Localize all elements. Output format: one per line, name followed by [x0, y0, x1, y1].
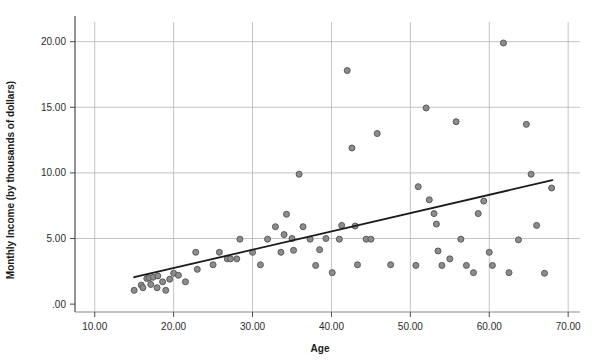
- data-point: [182, 279, 188, 285]
- data-point: [278, 249, 284, 255]
- data-point: [344, 68, 350, 74]
- scatter-chart: 10.0020.0030.0040.0050.0060.0070.00 .005…: [0, 0, 598, 361]
- data-points: [131, 40, 554, 293]
- data-point: [300, 224, 306, 230]
- y-tick-label: 20.00: [41, 36, 66, 47]
- x-tick-label: 30.00: [240, 321, 265, 332]
- data-point: [423, 105, 429, 111]
- data-point: [458, 236, 464, 242]
- data-point: [426, 197, 432, 203]
- data-point: [368, 236, 374, 242]
- data-point: [528, 171, 534, 177]
- data-point: [329, 270, 335, 276]
- data-point: [435, 248, 441, 254]
- data-point: [160, 279, 166, 285]
- x-axis-title: Age: [311, 343, 330, 354]
- x-tick-label: 10.00: [82, 321, 107, 332]
- data-point: [336, 236, 342, 242]
- y-tick-label: 5.00: [47, 233, 67, 244]
- data-point: [447, 256, 453, 262]
- data-point: [463, 262, 469, 268]
- data-point: [453, 119, 459, 125]
- y-tick-label: 10.00: [41, 167, 66, 178]
- data-point: [413, 262, 419, 268]
- data-point: [374, 131, 380, 137]
- data-point: [500, 40, 506, 46]
- data-point: [257, 262, 263, 268]
- data-point: [475, 211, 481, 217]
- data-point: [131, 287, 137, 293]
- x-tick-labels: 10.0020.0030.0040.0050.0060.0070.00: [82, 321, 581, 332]
- data-point: [140, 285, 146, 291]
- data-point: [323, 236, 329, 242]
- data-point: [470, 270, 476, 276]
- data-point: [272, 224, 278, 230]
- data-point: [317, 247, 323, 253]
- data-point: [486, 249, 492, 255]
- x-tick-label: 40.00: [319, 321, 344, 332]
- data-point: [194, 266, 200, 272]
- y-tick-labels: .005.0010.0015.0020.00: [41, 36, 66, 309]
- data-point: [515, 237, 521, 243]
- data-point: [167, 276, 173, 282]
- data-point: [283, 211, 289, 217]
- data-point: [489, 262, 495, 268]
- data-point: [237, 236, 243, 242]
- data-point: [415, 184, 421, 190]
- data-point: [291, 247, 297, 253]
- data-point: [265, 236, 271, 242]
- data-point: [349, 145, 355, 151]
- data-point: [175, 272, 181, 278]
- data-point: [210, 262, 216, 268]
- data-point: [481, 198, 487, 204]
- data-point: [148, 281, 154, 287]
- y-tick-label: 15.00: [41, 102, 66, 113]
- data-point: [296, 171, 302, 177]
- data-point: [433, 221, 439, 227]
- x-tick-label: 20.00: [161, 321, 186, 332]
- data-point: [549, 185, 555, 191]
- data-point: [193, 249, 199, 255]
- axis-lines: [75, 16, 580, 312]
- data-point: [281, 232, 287, 238]
- data-point: [506, 270, 512, 276]
- y-axis-title: Monthly Income (by thousands of dollars): [5, 81, 16, 279]
- data-point: [534, 222, 540, 228]
- data-point: [216, 249, 222, 255]
- tick-marks: [70, 42, 568, 317]
- data-point: [431, 211, 437, 217]
- data-point: [313, 262, 319, 268]
- data-point: [155, 273, 161, 279]
- x-tick-label: 70.00: [556, 321, 581, 332]
- data-point: [523, 121, 529, 127]
- data-point: [154, 285, 160, 291]
- data-point: [354, 262, 360, 268]
- data-point: [439, 262, 445, 268]
- plot-area: 10.0020.0030.0040.0050.0060.0070.00 .005…: [0, 0, 598, 361]
- data-point: [234, 256, 240, 262]
- x-tick-label: 50.00: [398, 321, 423, 332]
- data-point: [227, 256, 233, 262]
- data-point: [541, 270, 547, 276]
- data-point: [163, 287, 169, 293]
- x-tick-label: 60.00: [477, 321, 502, 332]
- y-tick-label: .00: [52, 299, 66, 310]
- data-point: [388, 262, 394, 268]
- data-point: [339, 222, 345, 228]
- gridlines: [75, 22, 580, 312]
